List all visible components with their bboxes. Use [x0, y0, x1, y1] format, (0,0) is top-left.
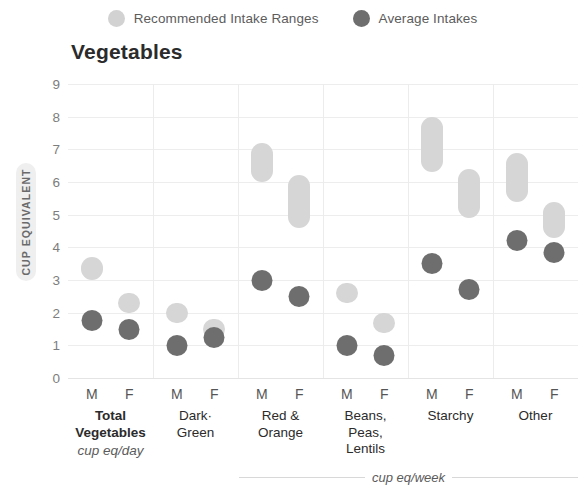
group-label-line: Dark· — [150, 408, 242, 425]
range-marker — [288, 175, 310, 227]
y-tick-label-2: 2 — [42, 305, 60, 320]
x-tick-sex-label: M — [511, 386, 523, 402]
y-axis-title: CUP EQUIVALENT — [16, 163, 36, 281]
x-axis-group-label: Red &Orange — [235, 408, 327, 441]
legend-range-swatch-icon — [108, 10, 125, 27]
average-marker — [81, 310, 102, 331]
y-tick-label-1: 1 — [42, 338, 60, 353]
x-tick-sex-label: M — [341, 386, 353, 402]
average-marker — [166, 335, 187, 356]
x-tick-sex-label: F — [465, 386, 474, 402]
x-tick-sex-label: M — [256, 386, 268, 402]
group-label-line: Beans, — [320, 408, 412, 425]
range-marker — [118, 293, 140, 313]
group-separator — [153, 84, 154, 378]
range-marker — [458, 169, 480, 218]
legend-item-label: Average Intakes — [379, 11, 478, 26]
group-separator — [323, 84, 324, 378]
range-marker — [166, 303, 188, 323]
x-axis-week-unit: cup eq/week — [239, 470, 578, 485]
week-unit-label: cup eq/week — [372, 470, 445, 485]
x-axis-group-label: Dark·Green — [150, 408, 242, 441]
group-label-line: Orange — [235, 425, 327, 442]
x-tick-sex-label: F — [210, 386, 219, 402]
group-label-line: Starchy — [405, 408, 497, 425]
week-unit-rule-left — [239, 477, 365, 478]
average-marker — [374, 345, 395, 366]
average-marker — [544, 242, 565, 263]
range-marker — [251, 143, 273, 182]
range-marker — [373, 313, 395, 333]
y-tick-label-9: 9 — [42, 77, 60, 92]
x-tick-sex-label: F — [125, 386, 134, 402]
x-tick-sex-label: F — [295, 386, 304, 402]
legend-item-avg: Average Intakes — [353, 10, 478, 27]
group-label-line: Lentils — [320, 441, 412, 458]
x-tick-sex-label: M — [171, 386, 183, 402]
x-axis-group-label: Beans,Peas,Lentils — [320, 408, 412, 458]
gridline-0 — [68, 378, 578, 379]
x-tick-sex-label: F — [380, 386, 389, 402]
x-axis-group-label: Starchy — [405, 408, 497, 425]
range-marker — [81, 257, 103, 280]
range-marker — [336, 283, 358, 303]
x-axis-group-label: Other — [490, 408, 582, 425]
legend-average-swatch-icon — [353, 10, 370, 27]
group-label-line: Green — [150, 425, 242, 442]
average-marker — [506, 230, 527, 251]
group-separator — [408, 84, 409, 378]
y-tick-label-4: 4 — [42, 240, 60, 255]
average-marker — [336, 335, 357, 356]
x-tick-sex-label: M — [426, 386, 438, 402]
average-marker — [251, 270, 272, 291]
group-label-line: Vegetables — [65, 425, 157, 442]
range-marker — [543, 202, 565, 238]
y-tick-label-5: 5 — [42, 207, 60, 222]
y-tick-label-8: 8 — [42, 109, 60, 124]
legend-item-label: Recommended Intake Ranges — [134, 11, 319, 26]
group-label-line: Other — [490, 408, 582, 425]
average-marker — [119, 319, 140, 340]
average-marker — [459, 279, 480, 300]
chart-legend: Recommended Intake RangesAverage Intakes — [0, 4, 585, 32]
x-tick-sex-label: M — [86, 386, 98, 402]
x-axis: cup eq/week MFTotalVegetablescup eq/dayM… — [68, 380, 578, 504]
week-unit-rule-right — [452, 477, 578, 478]
y-tick-label-6: 6 — [42, 175, 60, 190]
group-label-line: Peas, — [320, 425, 412, 442]
x-tick-sex-label: F — [550, 386, 559, 402]
average-marker — [289, 286, 310, 307]
average-marker — [204, 327, 225, 348]
y-tick-label-3: 3 — [42, 273, 60, 288]
group-separator — [493, 84, 494, 378]
range-marker — [506, 153, 528, 202]
x-axis-group-label: TotalVegetablescup eq/day — [65, 408, 157, 460]
y-tick-label-0: 0 — [42, 371, 60, 386]
group-unit-label: cup eq/day — [65, 443, 157, 460]
group-label-line: Total — [65, 408, 157, 425]
group-separator — [238, 84, 239, 378]
plot-area: 9876543210 — [68, 84, 578, 378]
y-tick-label-7: 7 — [42, 142, 60, 157]
chart-title: Vegetables — [71, 40, 183, 64]
average-marker — [421, 253, 442, 274]
group-label-line: Red & — [235, 408, 327, 425]
legend-item-range: Recommended Intake Ranges — [108, 10, 319, 27]
range-marker — [421, 117, 443, 173]
